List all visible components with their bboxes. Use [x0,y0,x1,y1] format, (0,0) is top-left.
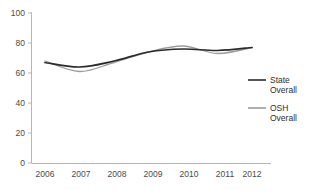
x-axis-label-2009: 2009 [144,169,163,179]
legend-label-state-line2: Overall [270,85,297,95]
x-axis-label-2012: 2012 [243,169,262,179]
legend-label-state-line1: State [270,75,290,85]
line-chart: 100 80 60 40 20 0 2006 2007 2008 2009 20… [0,0,309,191]
x-axis-label-2008: 2008 [108,169,127,179]
y-axis-label-20: 20 [16,128,26,138]
legend-label-osh-line2: Overall [270,113,297,123]
legend-label-osh-line1: OSH [270,103,288,113]
x-axis-label-2011: 2011 [216,169,235,179]
y-axis-label-80: 80 [16,38,26,48]
chart-canvas: 100 80 60 40 20 0 2006 2007 2008 2009 20… [0,0,309,191]
x-axis-label-2007: 2007 [72,169,91,179]
y-axis-label-40: 40 [16,98,26,108]
y-axis-label-100: 100 [11,8,25,18]
x-axis-label-2010: 2010 [180,169,199,179]
x-axis-label-2006: 2006 [36,169,55,179]
y-axis-label-60: 60 [16,68,26,78]
y-axis-label-0: 0 [20,158,25,168]
series-line-state-overall [45,48,252,68]
